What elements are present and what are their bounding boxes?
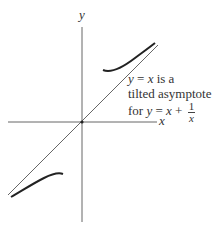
asymptote-annotation: y = x is a tilted asymptote for y = x + … xyxy=(128,72,211,124)
fraction-one-over-x: 1x xyxy=(188,101,196,124)
curve-upper-branch xyxy=(103,43,155,71)
annotation-line-2: tilted asymptote xyxy=(128,87,211,102)
origin-point xyxy=(80,120,83,123)
annotation-line-3: for y = x + 1x xyxy=(128,101,211,124)
annotation-line-1: y = x is a xyxy=(128,72,211,87)
y-axis-label: y xyxy=(79,8,85,21)
curve-lower-branch xyxy=(11,173,63,197)
